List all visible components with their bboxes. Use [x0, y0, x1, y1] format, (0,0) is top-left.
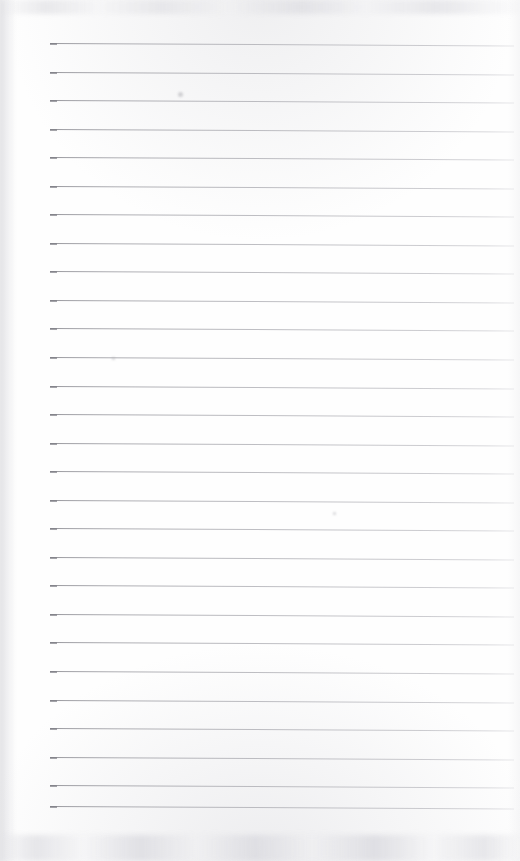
- paper-sheet: [0, 0, 520, 861]
- scanned-page: [0, 0, 520, 861]
